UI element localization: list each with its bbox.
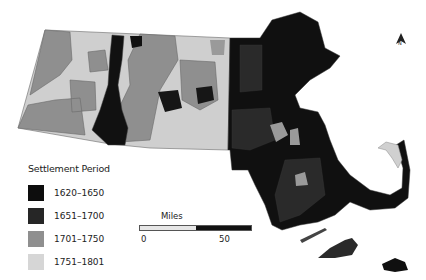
scale-segment-light [140,226,196,230]
legend-item: 1651–1700 [28,204,110,227]
elizabeth-islands [300,228,327,243]
legend-item: 1620–1650 [28,181,110,204]
scale-segment-dark [196,226,252,230]
legend-swatch [28,254,44,270]
legend-label: 1651–1700 [54,211,104,221]
scale-start-label: 0 [141,234,146,244]
nantucket [382,258,408,272]
legend-swatch [28,208,44,224]
legend-label: 1701–1750 [54,234,104,244]
legend-title: Settlement Period [28,163,110,174]
legend: Settlement Period 1620–1650 1651–1700 17… [28,163,110,273]
cape-cod-outer [378,142,402,168]
scale-bar-segments [139,225,252,231]
legend-swatch [28,231,44,247]
north-label: N [398,40,402,46]
scale-title: Miles [161,211,183,221]
legend-swatch [28,185,44,201]
legend-label: 1751–1801 [54,257,104,267]
legend-item: 1701–1750 [28,227,110,250]
legend-label: 1620–1650 [54,188,104,198]
dark-patch-north [130,36,142,48]
legend-item: 1751–1801 [28,250,110,273]
scale-end-label: 50 [219,234,230,244]
marthas-vineyard [318,238,358,258]
